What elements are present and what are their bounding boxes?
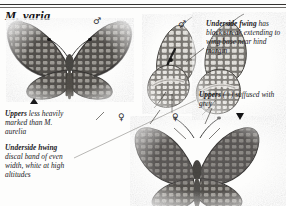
caption-underside-hwing-lead: Underside hwing xyxy=(5,143,57,152)
female-symbol-underside: ♀ xyxy=(118,113,125,122)
male-symbol-underside: ♂ xyxy=(178,20,186,29)
caption-uppers-female-lead: Uppers xyxy=(199,90,221,99)
triangle-up-icon xyxy=(30,98,38,104)
caption-underside-fwing-lead: Underside fwing xyxy=(206,19,257,28)
caption-underside-hwing-body: discal band of even width, white at high… xyxy=(5,152,64,179)
field-guide-plate: M. varia xyxy=(0,0,286,206)
caption-uppers-vs-aurelia: Uppers less heavily marked than M. aurel… xyxy=(5,109,75,136)
male-upperside-specimen xyxy=(6,18,134,102)
triangle-down-icon xyxy=(236,113,244,120)
caption-underside-fwing: Underside fwing has black streak extendi… xyxy=(206,19,284,55)
male-symbol-upperside: ♂ xyxy=(93,17,101,26)
caption-uppers-female: Uppers (♀) suffused with grey xyxy=(199,90,281,108)
caption-underside-hwing: Underside hwing discal band of even widt… xyxy=(5,143,73,179)
caption-uppers-vs-aurelia-lead: Uppers xyxy=(5,109,27,118)
female-symbol-upperside: ♀ xyxy=(172,113,179,122)
female-upperside-specimen xyxy=(130,116,286,206)
